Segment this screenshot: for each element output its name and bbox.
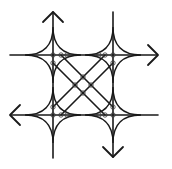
diag-a1-line: [53, 63, 105, 115]
diag-b2-line: [61, 63, 113, 115]
direction-arrows: [10, 12, 158, 157]
road-lines: [10, 12, 158, 158]
interchange-diagram: [0, 0, 172, 169]
corner-cusps: [25, 27, 141, 143]
diag-b1-line: [53, 55, 105, 107]
diag-a2-line: [61, 55, 113, 107]
diagonal-lanes: [53, 55, 113, 115]
diagram-canvas: [0, 0, 172, 169]
